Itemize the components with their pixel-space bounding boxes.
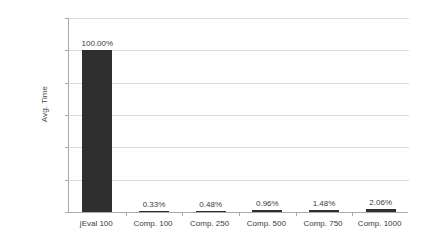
y-tick-mark — [65, 212, 69, 213]
x-category-label: Comp. 500 — [238, 219, 295, 228]
x-category-label: Comp. 250 — [181, 219, 238, 228]
bar[interactable] — [139, 211, 169, 213]
bar-slot: 0.33% — [126, 18, 183, 212]
plot-area: 100.00%0.33%0.48%0.96%1.48%2.06% — [68, 18, 408, 213]
x-category-label: Comp. 100 — [125, 219, 182, 228]
x-tick-mark — [352, 212, 353, 216]
x-category-label: jEval 100 — [68, 219, 125, 228]
bar-value-label: 100.00% — [82, 39, 114, 48]
bar-slot: 0.96% — [239, 18, 296, 212]
x-tick-mark — [182, 212, 183, 216]
bar-value-label: 0.48% — [199, 200, 222, 209]
bar-value-label: 2.06% — [369, 198, 392, 207]
x-tick-mark — [296, 212, 297, 216]
bar-slot: 2.06% — [352, 18, 409, 212]
bar-value-label: 0.96% — [256, 199, 279, 208]
bar[interactable] — [252, 210, 282, 212]
bar[interactable] — [366, 209, 396, 212]
bar-value-label: 1.48% — [313, 199, 336, 208]
bar[interactable] — [309, 210, 339, 212]
x-tick-mark — [239, 212, 240, 216]
x-tick-mark — [126, 212, 127, 216]
bar-chart: Avg. Time 0%20%40%60%80%100%120% 100.00%… — [0, 0, 422, 243]
bar[interactable] — [196, 211, 226, 213]
x-category-label: Comp. 750 — [295, 219, 352, 228]
bar-slot: 0.48% — [182, 18, 239, 212]
bar-slot: 100.00% — [69, 18, 126, 212]
y-axis-title: Avg. Time — [40, 69, 49, 139]
bar[interactable] — [82, 50, 112, 212]
bars-layer: 100.00%0.33%0.48%0.96%1.48%2.06% — [69, 18, 409, 212]
x-category-label: Comp. 1000 — [351, 219, 408, 228]
bar-value-label: 0.33% — [143, 200, 166, 209]
bar-slot: 1.48% — [296, 18, 353, 212]
